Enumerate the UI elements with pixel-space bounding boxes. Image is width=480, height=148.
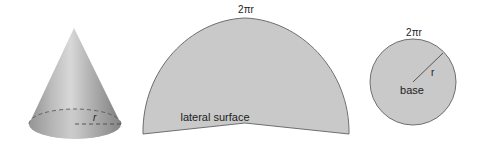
lateral-arc-length-label: 2πr <box>238 4 254 15</box>
cone-figure: r <box>29 28 121 139</box>
lateral-surface-caption: lateral surface <box>180 111 249 123</box>
cone-net-diagram: r 2πr lateral surface 2πr r base <box>0 0 480 148</box>
base-caption: base <box>400 84 424 96</box>
lateral-surface-figure: 2πr lateral surface <box>143 4 349 134</box>
base-figure: 2πr r base <box>370 27 456 125</box>
base-circumference-label: 2πr <box>406 27 422 38</box>
